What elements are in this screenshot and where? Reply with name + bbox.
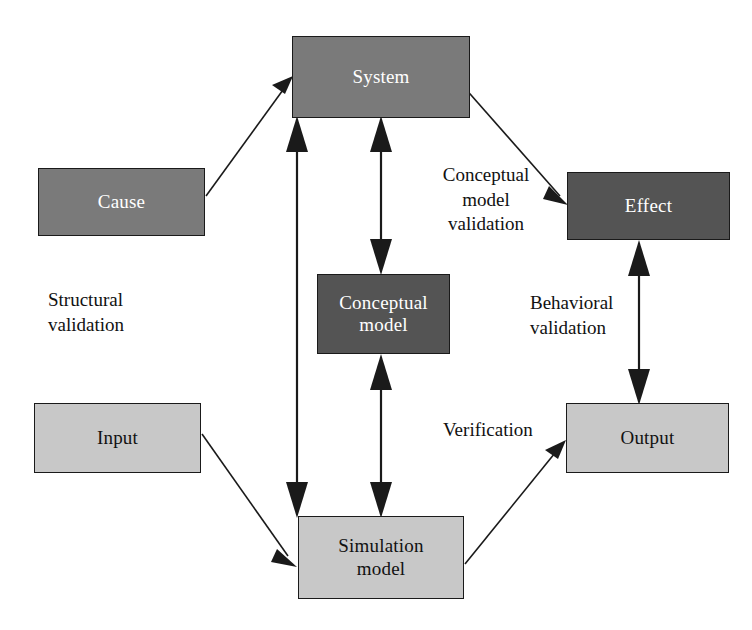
label-structural-validation: Structural validation bbox=[48, 288, 188, 337]
label-verification: Verification bbox=[443, 418, 563, 443]
diagram-canvas: System Cause Effect Conceptual model Inp… bbox=[0, 0, 752, 630]
label-behavioral-validation: Behavioral validation bbox=[530, 291, 660, 340]
node-system[interactable]: System bbox=[292, 36, 470, 118]
node-effect-label: Effect bbox=[621, 195, 676, 217]
node-simulation-model[interactable]: Simulation model bbox=[298, 516, 464, 599]
edge-system-to-conceptual-model bbox=[370, 116, 392, 275]
node-cause-label: Cause bbox=[94, 191, 149, 213]
node-output-label: Output bbox=[617, 427, 679, 449]
node-output[interactable]: Output bbox=[566, 403, 729, 473]
edge-cause-to-system bbox=[206, 76, 293, 196]
node-cause[interactable]: Cause bbox=[38, 168, 205, 236]
edge-input-to-simulation-model bbox=[202, 434, 297, 567]
node-system-label: System bbox=[348, 66, 413, 88]
edge-simulation-model-to-system bbox=[286, 116, 308, 518]
node-simulation-model-label: Simulation model bbox=[334, 535, 427, 580]
edge-simulation-model-to-output bbox=[465, 440, 566, 564]
label-conceptual-model-validation: Conceptual model validation bbox=[423, 163, 549, 237]
node-conceptual-model-label: Conceptual model bbox=[335, 292, 432, 337]
edge-conceptual-model-to-simulation-model bbox=[370, 354, 392, 518]
node-conceptual-model[interactable]: Conceptual model bbox=[317, 274, 450, 354]
node-input-label: Input bbox=[93, 427, 142, 449]
node-effect[interactable]: Effect bbox=[567, 172, 730, 240]
node-input[interactable]: Input bbox=[34, 403, 201, 473]
